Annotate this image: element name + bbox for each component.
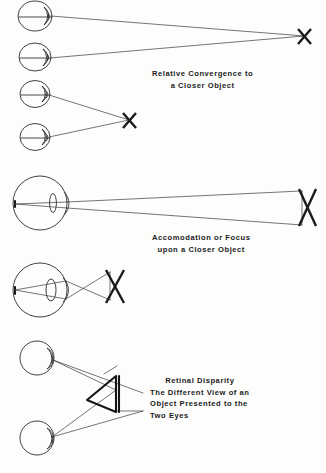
disparity-ray-lower-b [52, 411, 143, 437]
caption-accommodation-focus: Accomodation or Focus upon a Closer Obje… [152, 232, 250, 255]
eye-disparity-lower [20, 421, 54, 455]
caption-line: Two Eyes [150, 410, 250, 422]
eye-far-upper [18, 1, 52, 31]
ray-far-upper [67, 191, 302, 202]
ray-near-lower [66, 272, 110, 299]
eye-disparity-upper [20, 341, 54, 375]
target-x-far-middle [299, 189, 316, 226]
disparity-ray-upper-a [53, 360, 116, 390]
disparity-extension-top [104, 366, 117, 374]
eye-accommodation-near [13, 263, 68, 317]
sightline-far-lower [50, 36, 304, 58]
eye-far-lower [19, 43, 51, 71]
target-x-near-top [123, 113, 136, 128]
disparity-ray-lower-a [52, 390, 116, 437]
eye-accommodation-far [13, 176, 69, 230]
caption-line: a Closer Object [152, 80, 253, 92]
caption-line: Retinal Disparity [150, 375, 250, 387]
caption-line: The Different View of an [150, 387, 250, 399]
caption-line: upon a Closer Object [152, 244, 250, 256]
target-x-near-middle [106, 270, 124, 303]
caption-retinal-disparity: Retinal Disparity The Different View of … [150, 375, 250, 421]
sightline-near-upper [49, 95, 129, 120]
sightline-near-lower [49, 120, 129, 137]
figure-root: Relative Convergence to a Closer Object … [0, 0, 326, 473]
caption-line: Relative Convergence to [152, 68, 253, 80]
ray-far-lower [67, 208, 302, 225]
object-triangle [87, 376, 119, 412]
caption-line: Object Presented to the [150, 398, 250, 410]
eye-near-lower [20, 124, 50, 151]
sightline-far-upper [51, 16, 304, 36]
eye-near-upper [20, 81, 50, 108]
disparity-ray-upper-b [53, 360, 143, 393]
caption-relative-convergence: Relative Convergence to a Closer Object [152, 68, 253, 91]
panel-retinal-disparity [20, 341, 143, 455]
caption-line: Accomodation or Focus [152, 232, 250, 244]
ray-near-upper [66, 281, 110, 300]
